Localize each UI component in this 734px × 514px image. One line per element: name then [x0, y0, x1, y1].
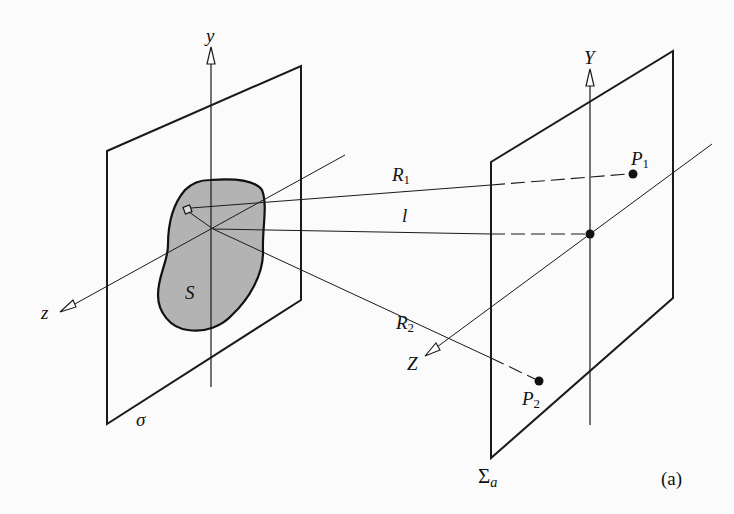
- label-l: l: [402, 206, 407, 225]
- label-Z-axis: Z: [407, 354, 418, 373]
- diffraction-geometry-diagram: y z S σ R1 l R2 Y Z P1 P2 Σa (a): [0, 0, 734, 514]
- Y-axis-arrow-icon: [586, 69, 594, 86]
- Z-axis: [437, 144, 712, 347]
- label-p2-main: P: [522, 388, 534, 409]
- label-sigma-a-main: Σ: [478, 464, 490, 488]
- ray-r2-solid: [213, 229, 491, 358]
- label-r1-sub: 1: [404, 172, 410, 187]
- label-y-axis: y: [206, 26, 214, 45]
- observation-plane-sigma-a: [491, 51, 673, 458]
- label-p2-sub: 2: [534, 396, 540, 411]
- y-axis-arrow-icon: [207, 47, 215, 64]
- label-p1-sub: 1: [643, 156, 649, 171]
- ray-r1-dashed: [491, 174, 628, 185]
- label-r1-main: R: [392, 164, 404, 185]
- label-sigma-a: Σa: [478, 466, 497, 489]
- ray-r2-dashed: [491, 358, 535, 379]
- Z-axis-arrow-icon: [425, 343, 440, 356]
- label-p2: P2: [522, 389, 540, 411]
- label-r2: R2: [396, 313, 414, 335]
- label-r2-sub: 2: [408, 320, 414, 335]
- label-p1: P1: [631, 149, 649, 171]
- label-r2-main: R: [396, 312, 408, 333]
- label-r1: R1: [392, 165, 410, 187]
- label-Y-axis: Y: [584, 48, 595, 67]
- label-sigma: σ: [136, 410, 145, 429]
- label-aperture-s: S: [185, 283, 195, 302]
- point-origin-observation: [586, 230, 595, 239]
- label-z-axis: z: [41, 303, 48, 322]
- label-p1-main: P: [631, 148, 643, 169]
- diagram-svg: [0, 0, 734, 514]
- label-sigma-a-sub: a: [490, 474, 497, 490]
- point-p2: [535, 377, 544, 386]
- panel-label: (a): [661, 469, 682, 488]
- z-axis-arrow-icon: [60, 300, 76, 312]
